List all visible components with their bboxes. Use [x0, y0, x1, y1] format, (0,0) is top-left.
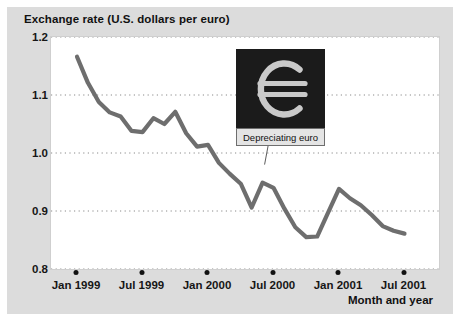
figure-inner-panel: Exchange rate (U.S. dollars per euro) 1.…: [7, 7, 453, 314]
x-axis-tick-marker: [205, 270, 210, 275]
x-axis-tick-marker: [336, 270, 341, 275]
x-axis-tick-label: Jul 2000: [250, 279, 295, 291]
euro-logo-box: [236, 49, 325, 129]
x-axis-tick-label: Jan 1999: [52, 279, 101, 291]
x-axis-tick-marker: [401, 270, 406, 275]
chart-title: Exchange rate (U.S. dollars per euro): [24, 13, 230, 25]
x-axis-title: Month and year: [348, 294, 433, 306]
y-axis-tick-label: 0.9: [14, 205, 48, 217]
depreciating-euro-annotation: Depreciating euro: [236, 49, 325, 147]
x-axis-tick-label: Jul 1999: [119, 279, 164, 291]
y-axis-tick-labels: 1.21.11.00.90.8: [7, 36, 48, 270]
x-axis-tick-label: Jan 2000: [183, 279, 232, 291]
annotation-caption: Depreciating euro: [236, 128, 325, 146]
y-axis-tick-label: 1.2: [14, 31, 48, 43]
x-axis-tick-marker: [74, 270, 79, 275]
y-axis-tick-label: 1.0: [14, 147, 48, 159]
x-axis-ticks: Jan 1999Jul 1999Jan 2000Jul 2000Jan 2001…: [50, 270, 440, 292]
y-axis-tick-label: 0.8: [14, 263, 48, 275]
y-axis-tick-label: 1.1: [14, 89, 48, 101]
plot-area: Depreciating euro: [50, 36, 440, 270]
euro-currency-symbol-icon: [236, 49, 325, 129]
x-axis-tick-marker: [270, 270, 275, 275]
x-axis-tick-label: Jan 2001: [314, 279, 363, 291]
x-axis-tick-marker: [139, 270, 144, 275]
chart-figure: Exchange rate (U.S. dollars per euro) 1.…: [0, 0, 460, 321]
x-axis-tick-label: Jul 2001: [381, 279, 426, 291]
